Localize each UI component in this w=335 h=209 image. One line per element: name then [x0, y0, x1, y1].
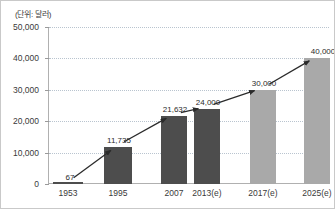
trend-arrow-overlay	[49, 27, 329, 184]
gridline	[49, 153, 329, 154]
y-tick-mark	[45, 121, 49, 122]
bar-value-label: 21,632	[163, 105, 187, 114]
y-tick-mark	[45, 58, 49, 59]
x-tick-label: 2025(e)	[302, 188, 331, 198]
y-tick-mark	[45, 153, 49, 154]
x-tick-label: 2017(e)	[248, 188, 277, 198]
bar-value-label: 11,735	[107, 136, 131, 145]
bar-value-label: 67	[66, 173, 75, 182]
y-tick-label: 0	[0, 179, 39, 189]
gridline	[49, 27, 329, 28]
y-axis-line	[48, 27, 49, 184]
y-tick-label: 10,000	[0, 148, 39, 158]
y-tick-label: 30,000	[0, 85, 39, 95]
bar	[53, 182, 83, 184]
x-tick-label: 2007	[165, 188, 184, 198]
gridline	[49, 58, 329, 59]
bar	[194, 109, 220, 184]
x-axis-line	[48, 183, 329, 184]
bar-chart: (단위: 달러) 010,00020,00030,00040,00050,000…	[0, 0, 335, 209]
y-tick-label: 40,000	[0, 53, 39, 63]
y-tick-label: 50,000	[0, 22, 39, 32]
x-tick-label: 2013(e)	[192, 188, 221, 198]
y-tick-mark	[45, 90, 49, 91]
bar	[161, 116, 187, 184]
bar	[304, 58, 330, 184]
bar	[250, 90, 276, 184]
bar-value-label: 24,000	[196, 98, 220, 107]
gridline	[49, 90, 329, 91]
y-tick-label: 20,000	[0, 116, 39, 126]
bar	[104, 147, 132, 184]
bar-value-label: 40,000	[311, 47, 335, 56]
y-tick-mark	[45, 27, 49, 28]
unit-label: (단위: 달러)	[15, 8, 51, 19]
x-tick-label: 1953	[59, 188, 78, 198]
gridline	[49, 121, 329, 122]
bar-value-label: 30,000	[252, 79, 276, 88]
x-tick-label: 1995	[109, 188, 128, 198]
plot-area: 010,00020,00030,00040,00050,000 19531995…	[49, 27, 329, 184]
y-tick-mark	[45, 184, 49, 185]
